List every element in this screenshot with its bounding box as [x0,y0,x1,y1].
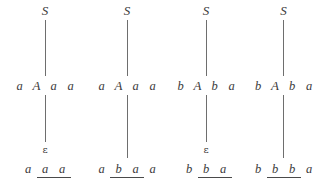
connector-line-lower [206,95,207,142]
connector-line-lower [283,95,284,158]
nonterminal-symbol: A [110,79,127,92]
derivation-column: SaAaaεaaa [6,0,84,184]
terminal-symbol: a [127,80,144,93]
root-symbol: S [42,4,49,17]
derivation-figure: SaAaaεaaaSaAaaabaaSbAbaεbbaSbAbabbba [0,0,323,184]
root-symbol: S [203,4,210,17]
terminal-symbol: a [301,163,318,176]
sentential-form-row: bAba [244,79,323,93]
terminal-symbol: b [284,80,301,93]
derivation-column: SbAbabbba [244,0,323,184]
marked-terminal-symbol: a [54,163,71,178]
terminal-symbol: b [181,163,198,176]
root-row: S [86,4,168,17]
marked-terminal-symbol: b [110,163,127,178]
epsilon-symbol: ε [203,145,208,155]
sentential-form-row: aAaa [6,79,84,93]
marked-terminal-symbol: b [267,163,284,178]
result-string-row: aaa [6,163,84,178]
derivation-column: SaAaaabaa [86,0,168,184]
connector-line-upper [206,20,207,76]
epsilon-row: ε [166,145,246,155]
result-string-row: bbba [244,163,323,178]
root-symbol: S [280,4,287,17]
epsilon-row: ε [6,145,84,155]
marked-terminal-symbol: a [215,163,232,178]
marked-terminal-symbol: b [284,163,301,178]
result-string-row: bba [166,163,246,178]
terminal-symbol: a [223,80,240,93]
connector-line-lower [127,95,128,158]
terminal-symbol: a [93,163,110,176]
connector-line-upper [45,20,46,76]
result-string-row: abaa [86,163,168,178]
terminal-symbol: a [45,80,62,93]
terminal-symbol: a [93,80,110,93]
marked-terminal-symbol: a [127,163,144,178]
terminal-symbol: a [144,80,161,93]
root-row: S [166,4,246,17]
terminal-symbol: a [20,163,37,176]
nonterminal-symbol: A [267,79,284,92]
terminal-symbol: b [250,80,267,93]
connector-line-upper [127,20,128,76]
root-symbol: S [124,4,131,17]
terminal-symbol: a [301,80,318,93]
terminal-symbol: b [250,163,267,176]
root-row: S [6,4,84,17]
connector-line-lower [45,95,46,142]
root-row: S [244,4,323,17]
derivation-column: SbAbaεbba [166,0,246,184]
terminal-symbol: b [172,80,189,93]
terminal-symbol: a [62,80,79,93]
sentential-form-row: aAaa [86,79,168,93]
nonterminal-symbol: A [28,79,45,92]
epsilon-symbol: ε [42,145,47,155]
marked-terminal-symbol: b [198,163,215,178]
sentential-form-row: bAba [166,79,246,93]
terminal-symbol: a [144,163,161,176]
marked-terminal-symbol: a [37,163,54,178]
terminal-symbol: b [206,80,223,93]
nonterminal-symbol: A [189,79,206,92]
terminal-symbol: a [11,80,28,93]
connector-line-upper [283,20,284,76]
